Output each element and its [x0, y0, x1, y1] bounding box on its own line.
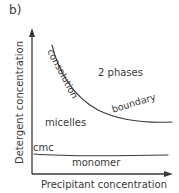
y-axis-arrowhead — [29, 28, 35, 37]
phase-diagram-figure: b) Detergent concentration consolution b… — [0, 0, 179, 193]
x-axis-arrowhead — [164, 171, 173, 177]
cmc-line — [34, 154, 168, 156]
monomer-region-label: monomer — [72, 157, 120, 168]
two-phases-region-label: 2 phases — [98, 67, 143, 78]
micelles-region-label: micelles — [45, 117, 86, 128]
cmc-label: cmc — [33, 142, 54, 153]
x-axis-label: Precipitant concentration — [30, 179, 178, 190]
